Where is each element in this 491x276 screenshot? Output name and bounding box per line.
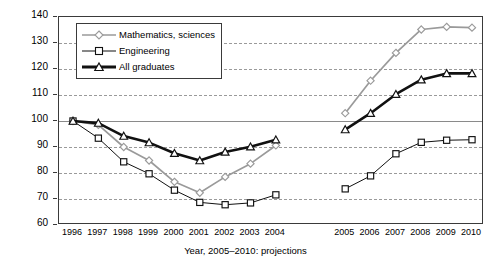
series-line <box>345 140 472 189</box>
y-tick-label-90: 90 <box>0 140 48 150</box>
x-tick-label-2007: 2007 <box>385 226 405 238</box>
y-tick-mark-60 <box>53 224 57 225</box>
x-tick-label-1996: 1996 <box>62 226 82 238</box>
data-point-marker <box>342 186 348 192</box>
x-axis-tick-labels: 1996199719981999200020012002200320042005… <box>0 226 491 240</box>
legend-swatch-triangle-icon <box>81 60 117 74</box>
legend-swatch-square-icon <box>81 44 117 58</box>
y-tick-mark-120 <box>53 68 57 69</box>
y-tick-mark-130 <box>53 42 57 43</box>
legend-item-engineering: Engineering <box>81 43 215 59</box>
data-point-marker <box>443 23 450 30</box>
x-tick-label-2006: 2006 <box>360 226 380 238</box>
data-point-marker <box>444 137 450 143</box>
x-tick-label-2004: 2004 <box>265 226 285 238</box>
x-tick-label-2009: 2009 <box>436 226 456 238</box>
data-point-marker <box>418 139 424 145</box>
y-tick-mark-140 <box>53 16 57 17</box>
data-point-marker <box>171 187 177 193</box>
legend-swatch-diamond-icon <box>81 28 117 42</box>
y-tick-label-130: 130 <box>0 36 48 46</box>
y-tick-label-80: 80 <box>0 166 48 176</box>
legend: Mathematics, sciences Engineering All gr… <box>76 23 222 79</box>
y-tick-label-120: 120 <box>0 62 48 72</box>
x-tick-label-2005: 2005 <box>334 226 354 238</box>
x-tick-label-1998: 1998 <box>113 226 133 238</box>
x-tick-label-2000: 2000 <box>163 226 183 238</box>
x-axis-title: Year, 2005–2010: projections <box>0 245 491 256</box>
data-point-marker <box>367 173 373 179</box>
chart-container: No. of graduates, 1996 = 100 60708090100… <box>0 0 491 276</box>
x-tick-label-2001: 2001 <box>189 226 209 238</box>
x-tick-label-1999: 1999 <box>138 226 158 238</box>
data-point-marker <box>247 200 253 206</box>
x-tick-label-2002: 2002 <box>214 226 234 238</box>
x-tick-label-2010: 2010 <box>461 226 481 238</box>
data-point-marker <box>393 151 399 157</box>
series-line <box>345 73 472 129</box>
data-point-marker <box>222 202 228 208</box>
x-tick-label-2003: 2003 <box>239 226 259 238</box>
y-tick-mark-90 <box>53 146 57 147</box>
x-tick-label-2008: 2008 <box>410 226 430 238</box>
data-point-marker <box>273 192 279 198</box>
y-tick-label-110: 110 <box>0 88 48 98</box>
legend-item-mathematics-sciences: Mathematics, sciences <box>81 27 215 43</box>
data-point-marker <box>469 137 475 143</box>
series-engineering <box>70 118 475 208</box>
data-point-marker <box>121 159 127 165</box>
data-point-marker <box>468 24 475 31</box>
y-tick-mark-80 <box>53 172 57 173</box>
y-axis-tick-labels: 60708090100110120130140 <box>0 16 52 224</box>
legend-item-all-graduates: All graduates <box>81 59 215 75</box>
legend-label: All graduates <box>119 62 174 72</box>
legend-label: Mathematics, sciences <box>119 30 215 40</box>
data-point-marker <box>146 171 152 177</box>
y-tick-label-70: 70 <box>0 192 48 202</box>
legend-label: Engineering <box>119 46 170 56</box>
y-tick-label-100: 100 <box>0 114 48 124</box>
y-tick-mark-70 <box>53 198 57 199</box>
data-point-marker <box>197 199 203 205</box>
data-point-marker <box>95 135 101 141</box>
y-tick-mark-100 <box>53 120 57 121</box>
series-line <box>345 27 472 113</box>
x-tick-label-1997: 1997 <box>87 226 107 238</box>
y-tick-label-140: 140 <box>0 10 48 20</box>
y-tick-mark-110 <box>53 94 57 95</box>
plot-area: Mathematics, sciences Engineering All gr… <box>58 16 483 224</box>
